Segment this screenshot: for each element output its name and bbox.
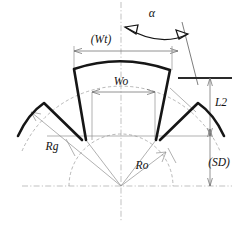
- label-wt: (Wt): [91, 33, 112, 46]
- alpha-reference-slant: [182, 22, 198, 85]
- label-ro: Ro: [135, 159, 149, 171]
- rg-radius-line: [31, 112, 121, 186]
- alpha-angle-indicator: [125, 25, 188, 40]
- technical-diagram-root: α (Wt) Wo L2 (SD) Rg Ro: [0, 0, 242, 226]
- technical-drawing-canvas: α (Wt) Wo L2 (SD) Rg Ro: [0, 0, 242, 226]
- left-vane-axis: [86, 140, 121, 186]
- label-sd: (SD): [208, 156, 230, 169]
- label-l2: L2: [214, 96, 227, 108]
- left-side-vane-profile: [18, 103, 82, 140]
- right-side-vane-profile: [160, 103, 224, 140]
- label-alpha: α: [149, 6, 156, 20]
- alpha-arrowhead-left: [125, 25, 138, 34]
- label-rg: Rg: [45, 140, 59, 153]
- label-wo: Wo: [114, 75, 129, 87]
- central-bucket-profile: [74, 61, 170, 140]
- ro-arc-tick: [168, 148, 176, 163]
